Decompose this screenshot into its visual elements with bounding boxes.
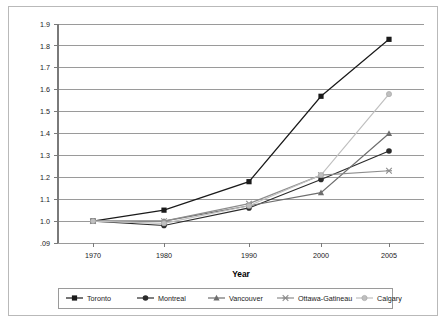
x-axis-tick-label: 1970 — [85, 251, 101, 260]
data-point-marker — [386, 91, 391, 96]
y-axis-tick-label: 1.6 — [40, 85, 50, 94]
series-montreal — [90, 148, 392, 228]
y-axis-ticks-group: 1.91.81.71.61.51.41.31.21.11.0.09 — [40, 20, 58, 248]
series-toronto — [90, 37, 391, 224]
data-point-marker — [318, 94, 323, 99]
x-axis-tick-label: 2000 — [313, 251, 329, 260]
data-point-marker — [246, 203, 251, 208]
legend-marker-icon — [362, 295, 367, 300]
y-axis-tick-label: 1.4 — [40, 129, 50, 138]
y-axis-tick-label: 1.0 — [40, 217, 50, 226]
y-axis-tick-label: 1.8 — [40, 42, 50, 51]
y-axis-tick-label: 1.1 — [40, 195, 50, 204]
data-point-marker — [386, 37, 391, 42]
legend-label: Ottawa-Gatineau — [298, 294, 352, 303]
data-point-marker — [90, 219, 95, 224]
series-line — [93, 171, 389, 221]
x-axis-ticks-group: 19701980199020002005 — [85, 243, 397, 260]
y-axis-tick-label: 1.2 — [40, 173, 50, 182]
legend-label: Montreal — [158, 294, 186, 303]
x-axis-tick-label: 1980 — [156, 251, 172, 260]
y-axis-tick-label: 1.7 — [40, 63, 50, 72]
legend-marker-icon — [72, 295, 77, 300]
series-line — [93, 94, 389, 223]
legend-marker-icon — [143, 295, 149, 301]
x-axis-tick-label: 1990 — [241, 251, 257, 260]
data-point-marker — [246, 179, 251, 184]
y-axis-tick-label: 1.5 — [40, 107, 50, 116]
data-point-marker — [161, 208, 166, 213]
series-ottawa-gatineau — [90, 168, 392, 224]
y-axis-tick-label: .09 — [40, 239, 50, 248]
legend-label: Toronto — [87, 294, 111, 303]
y-axis-tick-label: 1.9 — [40, 20, 50, 29]
legend-label: Calgary — [377, 294, 402, 303]
y-axis-tick-label: 1.3 — [40, 151, 50, 160]
x-axis-tick-label: 2005 — [381, 251, 397, 260]
chart-figure: 1.91.81.71.61.51.41.31.21.11.0.09 197019… — [0, 0, 448, 324]
x-axis-title-group: Year — [232, 269, 250, 279]
chart-legend: TorontoMontrealVancouverOttawa-GatineauC… — [58, 288, 402, 308]
data-point-marker — [161, 221, 166, 226]
series-line — [93, 39, 389, 221]
data-point-marker — [318, 173, 323, 178]
line-chart: 1.91.81.71.61.51.41.31.21.11.0.09 197019… — [0, 0, 448, 324]
data-point-marker — [386, 168, 392, 174]
legend-label: Vancouver — [229, 294, 263, 303]
x-axis-title: Year — [232, 269, 250, 279]
data-point-marker — [386, 148, 392, 154]
